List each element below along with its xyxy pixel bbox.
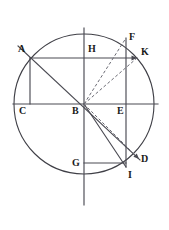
point-label-a: A [18,44,25,54]
geometry-figure: ABCDEFGHIK [0,0,169,230]
point-label-k: K [141,47,149,57]
diagonal-A-D [18,46,140,160]
point-label-e: E [117,106,124,116]
point-label-h: H [88,44,96,54]
dashed-B-D [84,104,137,157]
point-label-b: B [72,106,79,116]
point-label-d: D [141,154,148,164]
point-label-g: G [72,158,80,168]
dashed-B-K [84,58,137,104]
point-label-f: F [129,32,135,42]
arrowheads-group [132,56,141,161]
dashed-lines-group [84,38,137,157]
point-label-i: I [128,170,132,180]
arrow-at-K [132,56,138,61]
point-label-c: C [19,106,26,116]
